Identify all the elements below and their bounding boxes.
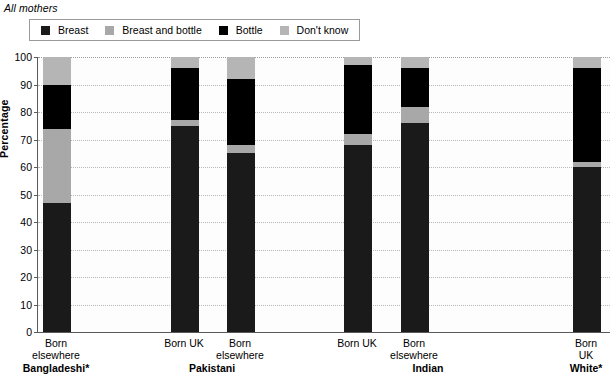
bar-segment-breast [43, 203, 71, 332]
y-tick-mark [34, 250, 38, 251]
bar-segment-breast-and-bottle [344, 134, 372, 145]
legend-label-dont-know: Don't know [297, 25, 349, 36]
x-group-label: Pakistani [189, 362, 235, 374]
bar-segment-don-t-know [227, 57, 255, 79]
gridline [38, 167, 610, 168]
bar-segment-don-t-know [573, 57, 601, 68]
bar-segment-bottle [171, 68, 199, 120]
chart-legend: Breast Breast and bottle Bottle Don't kn… [29, 19, 360, 41]
legend-swatch-breast-and-bottle [105, 26, 114, 35]
plot-area: 0102030405060708090100 [37, 57, 610, 333]
bar-segment-breast-and-bottle [171, 120, 199, 126]
bar-segment-bottle [401, 68, 429, 107]
y-tick-label: 90 [2, 79, 38, 90]
legend-item-dont-know: Don't know [280, 25, 349, 36]
legend-label-bottle: Bottle [236, 25, 263, 36]
x-tick-label: Born elsewhere [390, 338, 438, 361]
stacked-bar [573, 57, 601, 332]
x-tick-label: Born UK [337, 338, 377, 350]
y-tick-label: 40 [2, 217, 38, 228]
bar-segment-bottle [227, 79, 255, 145]
chart-caption: All mothers [4, 2, 58, 14]
x-group-label: Bangladeshi* [23, 362, 90, 374]
y-tick-label: 0 [2, 327, 38, 338]
legend-label-breast-and-bottle: Breast and bottle [122, 25, 201, 36]
bar-segment-don-t-know [43, 57, 71, 85]
y-tick-mark [34, 140, 38, 141]
y-tick-mark [34, 85, 38, 86]
y-tick-label: 100 [2, 52, 38, 63]
stacked-bar [43, 57, 71, 332]
bar-segment-don-t-know [344, 57, 372, 65]
x-tick-label: Born elsewhere [32, 338, 80, 361]
y-tick-mark [34, 195, 38, 196]
bar-segment-breast-and-bottle [227, 145, 255, 153]
bar-segment-breast [401, 123, 429, 332]
x-tick-label: Born elsewhere [216, 338, 264, 361]
bar-segment-breast-and-bottle [43, 129, 71, 203]
stacked-bar [401, 57, 429, 332]
y-tick-mark [34, 332, 38, 333]
y-tick-mark [34, 277, 38, 278]
stacked-bar [171, 57, 199, 332]
bar-segment-breast-and-bottle [401, 107, 429, 124]
y-tick-label: 60 [2, 162, 38, 173]
bar-segment-breast [171, 126, 199, 332]
bar-segment-bottle [43, 85, 71, 129]
bar-segment-breast [573, 167, 601, 332]
gridline [38, 112, 610, 113]
y-tick-mark [34, 57, 38, 58]
stacked-bar [227, 57, 255, 332]
y-tick-label: 70 [2, 134, 38, 145]
bar-segment-breast [344, 145, 372, 332]
gridline [38, 250, 610, 251]
legend-item-breast: Breast [41, 25, 88, 36]
y-tick-mark [34, 305, 38, 306]
gridline [38, 222, 610, 223]
y-tick-mark [34, 222, 38, 223]
bar-segment-bottle [573, 68, 601, 162]
bar-segment-don-t-know [171, 57, 199, 68]
legend-swatch-breast [41, 26, 50, 35]
y-tick-label: 10 [2, 299, 38, 310]
legend-swatch-dont-know [280, 26, 289, 35]
gridline [38, 277, 610, 278]
y-tick-label: 80 [2, 107, 38, 118]
stacked-bar [344, 57, 372, 332]
x-tick-label: Born UK [164, 338, 204, 350]
x-tick-label: Born UK [573, 338, 600, 361]
gridline [38, 305, 610, 306]
bar-segment-breast-and-bottle [573, 162, 601, 168]
legend-item-bottle: Bottle [219, 25, 263, 36]
gridline [38, 57, 610, 58]
gridline [38, 85, 610, 86]
bar-segment-breast [227, 153, 255, 332]
legend-label-breast: Breast [58, 25, 88, 36]
bar-segment-bottle [344, 65, 372, 134]
gridline [38, 195, 610, 196]
x-group-label: White* [570, 362, 603, 374]
y-tick-label: 50 [2, 189, 38, 200]
bar-segment-don-t-know [401, 57, 429, 68]
y-tick-label: 30 [2, 244, 38, 255]
x-group-label: Indian [413, 362, 444, 374]
gridline [38, 140, 610, 141]
legend-item-breast-and-bottle: Breast and bottle [105, 25, 201, 36]
y-tick-mark [34, 112, 38, 113]
y-tick-mark [34, 167, 38, 168]
legend-swatch-bottle [219, 26, 228, 35]
y-tick-label: 20 [2, 272, 38, 283]
